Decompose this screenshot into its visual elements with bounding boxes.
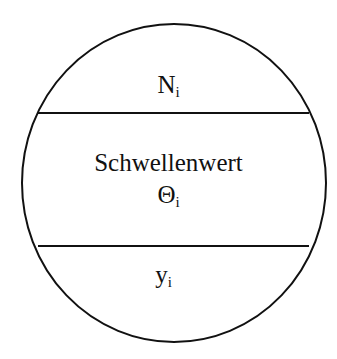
threshold-symbol-label: Θi bbox=[0, 182, 337, 210]
threshold-symbol: Θ bbox=[157, 181, 175, 208]
input-symbol: N bbox=[157, 71, 175, 98]
threshold-subscript: i bbox=[175, 194, 179, 210]
output-subscript: i bbox=[168, 274, 172, 290]
input-label: Ni bbox=[0, 72, 337, 100]
input-subscript: i bbox=[175, 84, 179, 100]
output-symbol: y bbox=[155, 261, 168, 288]
neuron-diagram bbox=[0, 0, 337, 359]
output-label: yi bbox=[0, 262, 332, 290]
threshold-label: Schwellenwert bbox=[0, 150, 337, 175]
threshold-text: Schwellenwert bbox=[94, 149, 243, 176]
